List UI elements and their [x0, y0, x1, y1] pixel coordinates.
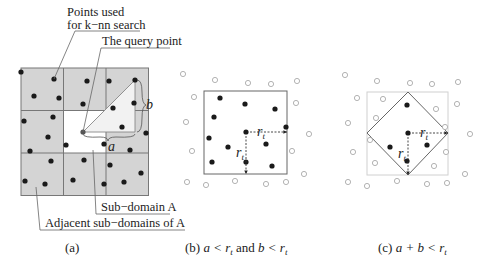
data-point: [101, 181, 106, 186]
data-point: [50, 114, 55, 119]
excluded-point: [394, 178, 399, 183]
caption-a: (a): [65, 240, 79, 255]
data-point: [81, 157, 86, 162]
panel-b: [180, 71, 311, 187]
figure-canvas: Points used for k−nn search The query po…: [0, 0, 491, 271]
excluded-point: [232, 178, 237, 183]
label-query-point: The query point: [102, 34, 182, 48]
rt-label-vertical-b: rt: [236, 145, 244, 162]
label-adjacent-subdomains: Adjacent sub−domains of A: [45, 216, 185, 230]
data-point: [121, 179, 126, 184]
excluded-point: [354, 95, 359, 100]
data-point: [18, 69, 23, 74]
data-point: [48, 158, 53, 163]
caption-c: (c) a + b < rt: [378, 240, 447, 257]
data-point: [132, 77, 137, 82]
excluded-point: [306, 131, 311, 136]
excluded-point: [374, 78, 379, 83]
caption-b: (b) a < rt and b < rt: [185, 240, 288, 257]
data-point: [119, 124, 124, 129]
excluded-point: [467, 131, 472, 136]
excluded-point: [431, 163, 436, 168]
var-b: b: [146, 97, 153, 112]
excluded-point: [294, 78, 299, 83]
excluded-point: [263, 181, 268, 186]
data-point: [56, 95, 61, 100]
excluded-point: [268, 81, 273, 86]
data-point: [138, 170, 143, 175]
excluded-point: [212, 77, 217, 82]
data-point: [110, 105, 115, 110]
excluded-point: [433, 106, 438, 111]
data-point: [106, 78, 111, 83]
candidate-point: [269, 163, 274, 168]
data-point: [42, 181, 47, 186]
excluded-point: [444, 180, 449, 185]
panel-c: [342, 72, 472, 188]
data-point: [63, 142, 68, 147]
label-points-line1: Points used: [67, 5, 125, 19]
excluded-point: [373, 115, 378, 120]
candidate-point: [217, 95, 222, 100]
excluded-point: [424, 181, 429, 186]
query-point: [405, 130, 410, 135]
candidate-point: [263, 141, 268, 146]
candidate-point: [225, 144, 230, 149]
rt-label-horizontal-b: rt: [257, 124, 265, 141]
var-a: a: [108, 139, 115, 154]
candidate-point: [209, 159, 214, 164]
rt-arrow-vertical-head: [244, 170, 247, 174]
excluded-point: [342, 72, 347, 77]
excluded-point: [293, 100, 298, 105]
data-point: [84, 78, 89, 83]
excluded-point: [372, 160, 377, 165]
excluded-point: [191, 94, 196, 99]
data-point: [27, 148, 32, 153]
candidate-point: [387, 144, 392, 149]
rt-arrow-horizontal-head: [283, 130, 287, 133]
rt-label-vertical-c: rt: [398, 146, 406, 163]
candidate-point: [211, 114, 216, 119]
excluded-point: [183, 119, 188, 124]
data-point: [143, 130, 148, 135]
candidate-point: [272, 106, 277, 111]
excluded-point: [364, 183, 369, 188]
excluded-point: [380, 96, 385, 101]
data-point: [21, 118, 26, 123]
excluded-point: [443, 149, 448, 154]
excluded-point: [289, 148, 294, 153]
excluded-point: [350, 149, 355, 154]
excluded-point: [189, 148, 194, 153]
data-point: [70, 177, 75, 182]
excluded-point: [203, 182, 208, 187]
data-point: [107, 162, 112, 167]
data-point: [101, 141, 106, 146]
data-point: [80, 101, 85, 106]
excluded-point: [455, 79, 460, 84]
candidate-point: [206, 135, 211, 140]
data-point: [127, 147, 132, 152]
excluded-point: [367, 137, 372, 142]
candidate-point: [242, 101, 247, 106]
query-point: [243, 129, 248, 134]
data-point: [131, 100, 136, 105]
excluded-point: [454, 101, 459, 106]
candidate-point: [424, 142, 429, 147]
excluded-point: [462, 171, 467, 176]
candidate-point: [404, 102, 409, 107]
excluded-point: [283, 179, 288, 184]
data-point: [22, 178, 27, 183]
candidate-point: [283, 124, 288, 129]
excluded-point: [407, 80, 412, 85]
excluded-point: [245, 80, 250, 85]
excluded-point: [345, 179, 350, 184]
excluded-point: [442, 124, 447, 129]
excluded-point: [184, 179, 189, 184]
data-point: [45, 134, 50, 139]
excluded-point: [429, 81, 434, 86]
label-points-line2: for k−nn search: [67, 18, 146, 32]
data-point: [31, 93, 36, 98]
excluded-point: [180, 71, 185, 76]
label-subdomain-a: Sub−domain A: [101, 200, 176, 214]
excluded-point: [345, 120, 350, 125]
